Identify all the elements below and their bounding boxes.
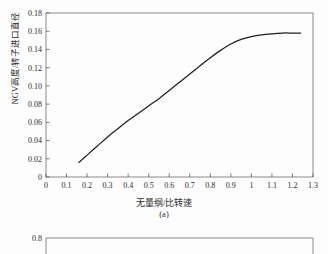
plot-frame <box>46 13 313 177</box>
x-axis-tick-label: 1.2 <box>287 181 297 190</box>
data-series-line <box>79 33 301 162</box>
x-axis-tick-label: 0.4 <box>123 181 133 190</box>
x-axis-tick-label: 0.3 <box>103 181 113 190</box>
chart-plot-area-a: 00.10.20.30.40.50.60.70.80.911.11.21.300… <box>0 0 328 196</box>
x-axis-tick-label: 0.5 <box>144 181 154 190</box>
x-axis-tick-label: 0.7 <box>185 181 195 190</box>
x-axis-label: 无量纲/比转速 <box>0 196 328 209</box>
figure-page: 00.10.20.30.40.50.60.70.80.911.11.21.300… <box>0 0 328 254</box>
y-axis-tick-label: 0 <box>38 173 42 182</box>
x-axis-tick-label: 0 <box>44 181 48 190</box>
y-axis-tick-label: 0.04 <box>28 136 42 145</box>
y-axis-tick-label: 0.10 <box>28 82 42 91</box>
y-axis-tick-label: 0.12 <box>28 64 42 73</box>
x-axis-tick-label: 1 <box>249 181 253 190</box>
chart-plot-area-b: 0.8 <box>0 228 328 254</box>
y-axis-tick-label: 0.8 <box>32 234 42 243</box>
x-axis-tick-label: 0.9 <box>226 181 236 190</box>
y-axis-label: NGV高度/转子进口直径 <box>8 0 20 118</box>
x-axis-tick-label: 0.8 <box>205 181 215 190</box>
chart-figure-a: 00.10.20.30.40.50.60.70.80.911.11.21.300… <box>0 0 328 225</box>
y-axis-tick-label: 0.18 <box>28 9 42 18</box>
x-axis-tick-label: 1.3 <box>308 181 318 190</box>
y-axis-tick-label: 0.02 <box>28 155 42 164</box>
x-axis-tick-label: 1.1 <box>267 181 277 190</box>
figure-caption: (a) <box>0 209 328 219</box>
chart-figure-b-partial: 0.8 <box>0 228 328 254</box>
x-axis-tick-label: 0.1 <box>62 181 72 190</box>
y-axis-tick-label: 0.14 <box>28 45 42 54</box>
x-axis-tick-label: 0.6 <box>164 181 174 190</box>
y-axis-tick-label: 0.06 <box>28 118 42 127</box>
x-axis-tick-label: 0.2 <box>82 181 92 190</box>
y-axis-tick-label: 0.08 <box>28 100 42 109</box>
y-axis-tick-label: 0.16 <box>28 27 42 36</box>
